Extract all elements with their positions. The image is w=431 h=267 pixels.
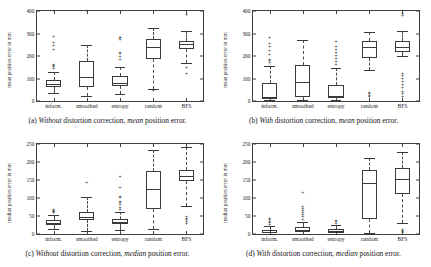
median-line: [179, 44, 194, 45]
outlier-marker: +: [268, 41, 271, 46]
y-tick-mark: [37, 180, 40, 181]
panel-d: median position error in mm 050100150200…: [216, 133, 431, 266]
outlier-marker: +: [268, 57, 271, 62]
panel-a-caption-emph1: Without: [39, 116, 62, 125]
whisker-upper: [87, 45, 88, 61]
whisker-upper: [87, 197, 88, 212]
whisker-cap-upper: [81, 45, 92, 46]
whisker-upper: [153, 28, 154, 38]
panel-a-ylabel-wrap: mean position error in mm: [6, 12, 16, 108]
y-tick-label: 250: [242, 141, 250, 147]
outlier-marker: +: [185, 12, 188, 17]
x-tick-label: BFS: [397, 236, 407, 242]
outlier-marker: +: [401, 9, 404, 14]
outlier-marker: +: [85, 180, 88, 185]
whisker-upper: [54, 72, 55, 79]
panel-d-caption-label: (d): [246, 249, 255, 258]
median-line: [295, 82, 310, 83]
whisker-lower: [402, 194, 403, 224]
y-tick-mark: [253, 216, 256, 217]
median-line: [395, 47, 410, 48]
median-line: [46, 223, 61, 224]
panel-b-caption-end: position error.: [357, 116, 398, 125]
outlier-marker: +: [334, 218, 337, 223]
outlier-marker: +: [334, 44, 337, 49]
panel-b-caption: (b) With distortion correction, mean pos…: [216, 116, 431, 125]
whisker-lower: [87, 220, 88, 230]
whisker-cap-upper: [115, 67, 126, 68]
x-tick-mark: [120, 98, 121, 101]
whisker-cap-lower: [48, 93, 59, 94]
x-tick-mark: [270, 144, 271, 147]
whisker-cap-lower: [81, 96, 92, 97]
x-tick-mark: [186, 98, 187, 101]
outlier-marker: +: [152, 88, 155, 93]
whisker-cap-lower: [264, 100, 275, 101]
whisker-cap-lower: [331, 100, 342, 101]
y-tick-mark: [416, 162, 419, 163]
panel-a-y-axis-label: mean position error in mm: [6, 12, 16, 108]
x-tick-mark: [303, 144, 304, 147]
outlier-marker: +: [118, 185, 121, 190]
outlier-marker: +: [268, 35, 271, 40]
y-tick-mark: [253, 11, 256, 12]
box-smoothed: [79, 61, 94, 87]
outlier-marker: +: [301, 190, 304, 195]
x-tick-mark: [369, 144, 370, 147]
whisker-cap-upper: [364, 158, 375, 159]
y-tick-label: 50: [29, 213, 34, 219]
outlier-marker: +: [52, 34, 55, 39]
x-tick-mark: [153, 11, 154, 14]
x-tick-mark: [54, 231, 55, 234]
y-tick-mark: [200, 162, 203, 163]
x-tick-label: inform.: [45, 103, 62, 109]
outlier-marker: +: [52, 40, 55, 45]
y-tick-mark: [416, 56, 419, 57]
whisker-upper: [369, 158, 370, 170]
y-tick-mark: [37, 216, 40, 217]
y-tick-label: 150: [242, 177, 250, 183]
whisker-cap-upper: [331, 68, 342, 69]
x-tick-mark: [120, 231, 121, 234]
boxplot-figure: mean position error in mm 0100200300400i…: [0, 0, 431, 267]
whisker-upper: [186, 31, 187, 40]
y-tick-mark: [200, 56, 203, 57]
y-tick-mark: [37, 234, 40, 235]
box-BFS: [395, 168, 410, 193]
panel-a-caption-mid: distortion correction,: [63, 116, 125, 125]
median-line: [112, 83, 127, 84]
panel-b-caption-emph2: mean: [339, 116, 355, 125]
y-tick-mark: [253, 162, 256, 163]
x-tick-label: inform.: [45, 236, 62, 242]
x-tick-mark: [120, 144, 121, 147]
y-tick-label: 400: [26, 8, 34, 14]
whisker-upper: [369, 32, 370, 40]
whisker-lower: [120, 86, 121, 95]
y-tick-mark: [253, 56, 256, 57]
x-tick-label: entropy: [111, 103, 128, 109]
x-tick-label: entropy: [327, 236, 344, 242]
panel-c-y-axis-label: median position error in mm: [6, 145, 16, 241]
x-tick-label: smoothed: [76, 236, 98, 242]
panel-a: mean position error in mm 0100200300400i…: [0, 0, 215, 133]
y-tick-label: 200: [26, 159, 34, 165]
y-tick-mark: [37, 33, 40, 34]
median-line: [179, 176, 194, 177]
y-tick-label: 100: [26, 76, 34, 82]
x-tick-label: smoothed: [292, 103, 314, 109]
panel-c-caption-emph1: Without: [36, 249, 59, 258]
whisker-upper: [153, 150, 154, 171]
panel-d-ylabel-wrap: median position error in mm: [222, 145, 232, 241]
x-tick-label: BFS: [181, 103, 191, 109]
panel-b-y-axis-label: mean position error in mm: [222, 12, 232, 108]
y-tick-label: 300: [26, 31, 34, 37]
whisker-cap-lower: [364, 70, 375, 71]
y-tick-mark: [37, 144, 40, 145]
x-tick-mark: [87, 144, 88, 147]
y-tick-label: 200: [242, 53, 250, 59]
y-tick-mark: [416, 78, 419, 79]
panel-c-caption-label: (c): [26, 249, 34, 258]
x-tick-label: smoothed: [292, 236, 314, 242]
median-line: [262, 232, 277, 233]
outlier-marker: +: [52, 208, 55, 213]
